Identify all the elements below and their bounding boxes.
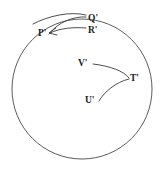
geometry-figure: P' Q' R' V' T' U' bbox=[0, 0, 165, 180]
label-v-prime: V' bbox=[78, 59, 88, 69]
label-r-prime: R' bbox=[88, 26, 98, 36]
figure-canvas bbox=[0, 0, 165, 180]
curve-v-to-t bbox=[93, 64, 129, 78]
circle-boundary bbox=[12, 19, 152, 159]
label-t-prime: T' bbox=[130, 74, 139, 84]
curve-u-to-t bbox=[99, 79, 129, 101]
label-q-prime: Q' bbox=[88, 14, 98, 24]
label-p-prime: P' bbox=[38, 29, 46, 39]
label-u-prime: U' bbox=[85, 96, 95, 106]
